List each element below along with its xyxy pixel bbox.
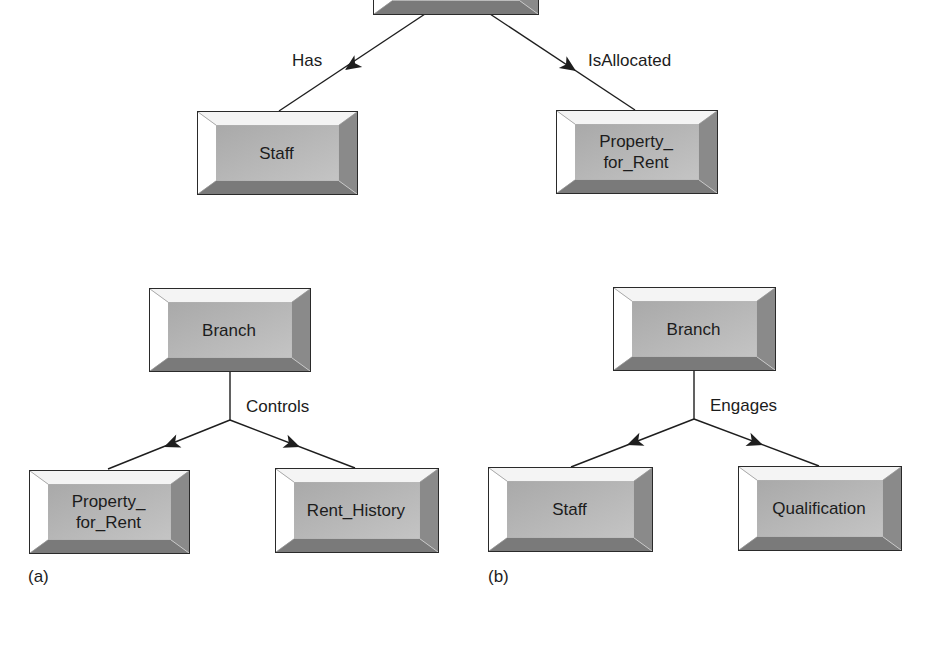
relationship-label-isallocated: IsAllocated <box>588 51 671 71</box>
entity-qualification[interactable]: Qualification <box>738 466 902 551</box>
entity-label: Property_ for_Rent <box>30 471 189 553</box>
entity-label: Staff <box>489 468 652 551</box>
entity-top-parent[interactable] <box>373 0 539 15</box>
engages-connector <box>571 370 819 467</box>
relationship-label-has: Has <box>292 51 322 71</box>
entity-label: Staff <box>198 112 357 194</box>
entity-staff-b[interactable]: Staff <box>488 467 653 552</box>
caption-a: (a) <box>28 567 49 587</box>
entity-property-for-rent[interactable]: Property_ for_Rent <box>556 110 718 194</box>
entity-label: Branch <box>150 289 310 371</box>
entity-staff[interactable]: Staff <box>197 111 358 195</box>
entity-branch-a[interactable]: Branch <box>149 288 311 372</box>
er-diagram-canvas: Staff Property_ for_Rent Has IsAllocated… <box>0 0 925 645</box>
entity-property-for-rent-a[interactable]: Property_ for_Rent <box>29 470 190 554</box>
caption-b: (b) <box>488 567 509 587</box>
controls-connector <box>108 371 355 469</box>
entity-label: Qualification <box>739 467 901 550</box>
entity-label: Branch <box>614 288 775 370</box>
entity-branch-b[interactable]: Branch <box>613 287 776 371</box>
entity-label: Rent_History <box>276 469 438 552</box>
entity-rent-history[interactable]: Rent_History <box>275 468 439 553</box>
entity-label <box>374 0 538 14</box>
entity-label: Property_ for_Rent <box>557 111 717 193</box>
relationship-label-engages: Engages <box>710 396 777 416</box>
relationship-label-controls: Controls <box>246 397 309 417</box>
